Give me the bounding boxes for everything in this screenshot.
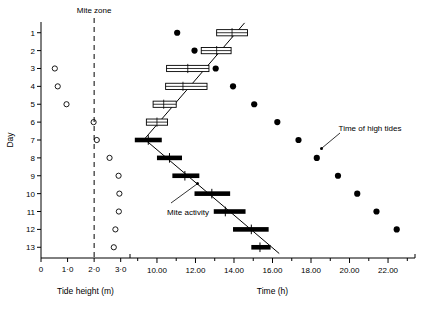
day-tick-label: 6 — [31, 118, 36, 127]
day-tick-label: 8 — [31, 154, 36, 163]
high-tide-point — [213, 65, 219, 71]
high-tide-point — [394, 226, 400, 232]
mite-activity-solid-bar — [214, 209, 246, 214]
tide-tick-label: 1·0 — [62, 265, 74, 274]
high-tide-point — [230, 83, 236, 89]
time-tick-label: 14.00 — [224, 266, 245, 275]
day-tick-label: 2 — [31, 47, 36, 56]
day-tick-label: 5 — [31, 100, 36, 109]
mite-activity-solid-bar — [172, 173, 199, 178]
time-axis-label: Time (h) — [257, 286, 288, 296]
day-tick-label: 1 — [31, 29, 36, 38]
day-tick-label: 12 — [26, 225, 35, 234]
time-tick-label: 16.00 — [262, 266, 283, 275]
day-axis-label: Day — [5, 132, 15, 148]
day-tick-label: 11 — [27, 208, 36, 217]
high-tide-point — [373, 208, 379, 214]
time-tick-label: 12.00 — [185, 266, 206, 275]
figure-canvas: 1234567891011121301·02·03·0 10.0012.0014… — [0, 0, 425, 314]
day-tick-label: 3 — [31, 64, 36, 73]
scientific-figure: 1234567891011121301·02·03·0 10.0012.0014… — [0, 0, 425, 314]
high-tide-point — [191, 48, 197, 54]
mite-activity-solid-bar — [251, 245, 270, 250]
high-tides-annotation-label: Time of high tides — [339, 124, 402, 133]
high-tide-point — [174, 30, 180, 36]
tide-tick-label: 3·0 — [115, 265, 127, 274]
day-tick-label: 13 — [26, 243, 35, 252]
time-tick-label: 10.00 — [147, 266, 168, 275]
time-tick-label: 20.00 — [340, 266, 361, 275]
day-tick-label: 7 — [31, 136, 36, 145]
high-tide-point — [251, 101, 257, 107]
mite-zone-label: Mite zone — [77, 6, 112, 15]
day-tick-label: 4 — [31, 82, 36, 91]
mite-activity-leader-dot — [196, 182, 199, 185]
high-tide-point — [354, 191, 360, 197]
time-tick-label: 18.00 — [301, 266, 322, 275]
mite-activity-annotation-label: Mite activity — [167, 208, 209, 217]
day-tick-label: 9 — [31, 172, 36, 181]
tide-height-axis-label: Tide height (m) — [57, 286, 114, 296]
day-tick-label: 10 — [26, 190, 35, 199]
high-tide-point — [314, 155, 320, 161]
time-tick-label: 22.00 — [378, 266, 399, 275]
high-tide-point — [295, 137, 301, 143]
tide-tick-label: 0 — [39, 265, 44, 274]
high-tide-point — [335, 173, 341, 179]
high-tides-leader-dot — [320, 147, 323, 150]
high-tide-point — [274, 119, 280, 125]
tide-tick-label: 2·0 — [88, 265, 100, 274]
